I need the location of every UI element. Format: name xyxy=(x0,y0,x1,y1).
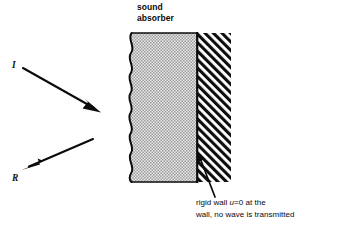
sound-absorber-region xyxy=(126,32,198,183)
incident-ray-arrowhead xyxy=(83,99,102,113)
incident-ray-label: I xyxy=(12,60,16,71)
incident-ray-shaft xyxy=(23,68,94,108)
reflected-ray-label: R xyxy=(12,173,18,184)
caption-text-before-italic: rigid wall xyxy=(196,198,230,207)
reflected-ray-shaft xyxy=(29,139,93,167)
rigid-wall-region xyxy=(197,32,231,183)
sound-absorber-label-line2: absorber xyxy=(137,14,174,24)
rigid-wall-hatch-fill xyxy=(198,33,231,182)
caption-text-after-italic: =0 at the xyxy=(234,198,266,207)
absorber-stipple-fill xyxy=(126,32,198,183)
rigid-wall-caption-line2: wall, no wave is transmitted xyxy=(196,210,294,219)
sound-absorber-label-line1: sound xyxy=(137,3,163,13)
diagram-canvas xyxy=(0,0,341,228)
incident-ray-arrow xyxy=(23,68,101,113)
reflected-ray-arrow xyxy=(22,139,94,170)
rigid-wall-caption-line1: rigid wall u=0 at the xyxy=(196,198,266,207)
sound-absorber-diagram: sound absorber I R rigid wall u=0 at the… xyxy=(0,0,341,228)
